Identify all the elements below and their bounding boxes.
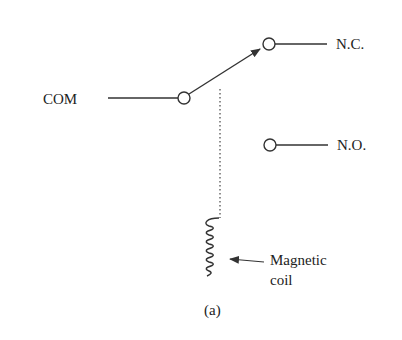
nc-label: N.C. bbox=[336, 36, 364, 52]
coil-label-line1: Magnetic bbox=[270, 252, 327, 268]
magnetic-coil-icon bbox=[206, 218, 219, 276]
nc-terminal bbox=[263, 38, 275, 50]
no-label: N.O. bbox=[337, 137, 366, 153]
com-label: COM bbox=[43, 91, 77, 107]
coil-pointer-arrow bbox=[230, 259, 264, 262]
figure-caption: (a) bbox=[204, 302, 221, 319]
com-terminal bbox=[178, 92, 190, 104]
coil-label-line2: coil bbox=[270, 272, 293, 288]
relay-diagram: COM N.C. N.O. Magnetic coil (a) bbox=[0, 0, 402, 340]
no-terminal bbox=[264, 139, 276, 151]
switch-arm-arrow bbox=[189, 49, 260, 94]
